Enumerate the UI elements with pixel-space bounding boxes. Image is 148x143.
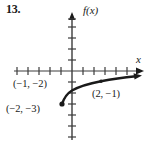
point-label-neg1-neg2: (−1, −2) <box>13 78 47 89</box>
point-label-neg2-neg3: (−2, −3) <box>6 103 40 114</box>
x-axis-label: x <box>136 53 141 65</box>
coordinate-plot <box>0 0 148 143</box>
y-axis-label: f(x) <box>83 4 98 16</box>
curve-arrowhead <box>134 73 143 79</box>
curve-endpoint-dot <box>59 101 64 106</box>
point-label-2-neg1: (2, −1) <box>92 88 120 99</box>
curve-point-marker <box>99 80 102 83</box>
figure-container: 13. <box>0 0 148 143</box>
x-axis-arrowhead <box>136 68 144 75</box>
